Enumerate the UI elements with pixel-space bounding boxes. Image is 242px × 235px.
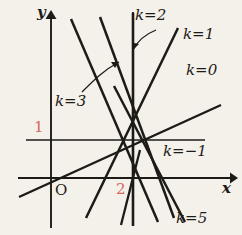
line-label-k-minus-1: k=−1 [163, 144, 207, 159]
x-tick-label-2: 2 [116, 182, 126, 197]
line-label-k-5: k=5 [176, 211, 207, 226]
line-label-k-3: k=3 [55, 94, 86, 109]
x-axis-label: x [222, 181, 231, 196]
y-axis-arrowhead [46, 10, 57, 19]
x-axis-arrowhead [230, 173, 238, 184]
line-k-3 [71, 19, 158, 222]
line-label-k-2: k=2 [135, 8, 166, 23]
y-tick-label-1: 1 [34, 120, 44, 135]
origin-label: O [55, 183, 67, 198]
y-axis-label: y [37, 5, 46, 20]
k2-annotation-arrow [133, 30, 156, 50]
line-label-k-1: k=1 [183, 27, 214, 42]
k2-annotation-arrowhead [133, 43, 139, 50]
figure-canvas: y x O 1 2 k=2 k=1 k=0 k=3 k=−1 k=5 [0, 0, 242, 235]
line-label-k-0: k=0 [186, 63, 217, 78]
line-k-minus-1 [100, 17, 174, 218]
